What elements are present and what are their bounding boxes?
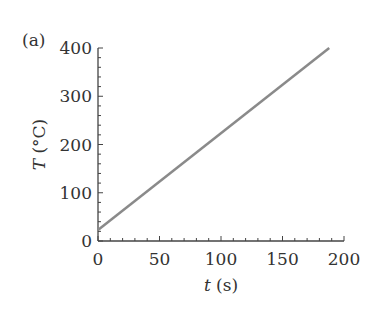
x-tick-label: 200 <box>328 249 360 269</box>
x-tick-label: 50 <box>149 249 171 269</box>
x-axis-label: t (s) <box>204 275 238 295</box>
y-tick-label: 300 <box>60 86 92 106</box>
y-tick-label: 400 <box>60 38 92 58</box>
y-tick-label: 0 <box>81 231 92 251</box>
y-axis-label: T (°C) <box>29 119 49 171</box>
data-line <box>98 48 329 230</box>
x-tick-label: 100 <box>205 249 237 269</box>
chart: 0100200300400050100150200t (s)T (°C) <box>0 0 381 312</box>
x-tick-label: 0 <box>93 249 104 269</box>
x-tick-label: 150 <box>266 249 298 269</box>
y-tick-label: 200 <box>60 135 92 155</box>
y-tick-label: 100 <box>60 183 92 203</box>
